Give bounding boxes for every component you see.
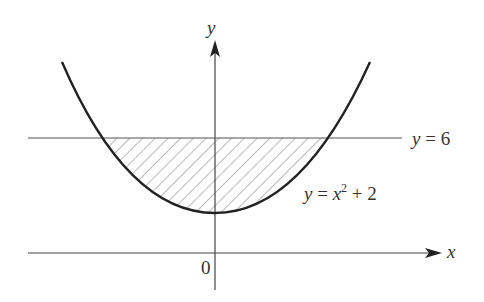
diagram-graphics: [0, 0, 484, 302]
diagram: y x 0 y = 6 y = x2 + 2: [0, 0, 484, 302]
curve-label-var: x: [333, 183, 341, 204]
line-label-rest: = 6: [420, 128, 450, 149]
y-axis-label: y: [207, 18, 215, 37]
x-axis-label: x: [447, 242, 455, 261]
curve-label-eq: =: [312, 183, 332, 204]
curve-label-exp: 2: [341, 181, 347, 195]
origin-label: 0: [201, 258, 211, 277]
curve-label: y = x2 + 2: [304, 184, 377, 203]
curve-label-rest: + 2: [347, 183, 377, 204]
line-label: y = 6: [412, 129, 450, 148]
